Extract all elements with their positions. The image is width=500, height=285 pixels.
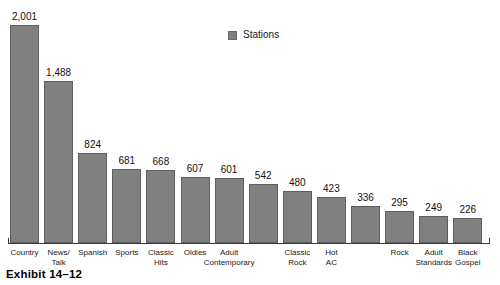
category-label-line: Talk: [47, 258, 69, 268]
bar-group[interactable]: 480: [283, 0, 312, 243]
category-label: AdultContemporary: [204, 248, 255, 267]
category-label-line: Country: [10, 248, 38, 258]
category-label: Country: [10, 248, 38, 258]
bar-group[interactable]: 668: [146, 0, 175, 243]
bar[interactable]: [112, 169, 141, 243]
bar-group[interactable]: 249: [419, 0, 448, 243]
x-axis-right-cap: [489, 238, 490, 244]
category-label-line: AC: [325, 258, 337, 268]
bar[interactable]: [78, 153, 107, 243]
bar-value-label: 249: [425, 203, 442, 213]
category-label-line: Gospel: [455, 258, 480, 268]
category-label-line: Black: [455, 248, 480, 258]
category-label: HotAC: [325, 248, 337, 267]
bar-group[interactable]: 295: [385, 0, 414, 243]
exhibit-caption: Exhibit 14–12: [6, 268, 82, 280]
bar[interactable]: [351, 206, 380, 243]
bar-value-label: 336: [357, 193, 374, 203]
bar-group[interactable]: 681: [112, 0, 141, 243]
category-label: Spanish: [78, 248, 107, 258]
category-label: Rock: [390, 248, 408, 258]
bar-group[interactable]: 2,001: [10, 0, 39, 243]
bar[interactable]: [419, 216, 448, 243]
bar[interactable]: [146, 170, 175, 243]
category-label-line: Hot: [325, 248, 337, 258]
bar-group[interactable]: 423: [317, 0, 346, 243]
bar[interactable]: [181, 177, 210, 243]
category-label: ClassicRock: [284, 248, 310, 267]
bar-value-label: 824: [84, 140, 101, 150]
bar[interactable]: [44, 81, 73, 243]
bar-value-label: 423: [323, 184, 340, 194]
bar-value-label: 2,001: [12, 12, 37, 22]
category-label-line: Classic: [284, 248, 310, 258]
bar[interactable]: [317, 197, 346, 243]
bar-chart-plot-area: 2,0011,488824681668607601542480423336295…: [0, 0, 500, 243]
bar-group[interactable]: 607: [181, 0, 210, 243]
bar[interactable]: [385, 211, 414, 243]
bar-group[interactable]: 542: [249, 0, 278, 243]
x-axis-line: [8, 243, 490, 244]
bar-value-label: 601: [221, 165, 238, 175]
bar-group[interactable]: 601: [215, 0, 244, 243]
bar-value-label: 226: [459, 205, 476, 215]
category-label-line: Adult: [415, 248, 451, 258]
exhibit-figure: Stations 2,0011,488824681668607601542480…: [0, 0, 500, 285]
category-label-line: Sports: [115, 248, 138, 258]
category-label-line: Hits: [148, 258, 174, 268]
category-label: ClassicHits: [148, 248, 174, 267]
bar[interactable]: [283, 191, 312, 243]
category-label: News/Talk: [47, 248, 69, 267]
bar-value-label: 681: [118, 156, 135, 166]
bar-value-label: 542: [255, 171, 272, 181]
category-label-line: Adult: [204, 248, 255, 258]
x-axis-left-cap: [8, 238, 9, 244]
bar-group[interactable]: 336: [351, 0, 380, 243]
category-label-line: Spanish: [78, 248, 107, 258]
bar-value-label: 1,488: [46, 68, 71, 78]
category-label-line: Standards: [415, 258, 451, 268]
category-label: AdultStandards: [415, 248, 451, 267]
category-label: BlackGospel: [455, 248, 480, 267]
bar-value-label: 668: [153, 157, 170, 167]
bar-group[interactable]: 1,488: [44, 0, 73, 243]
bar-value-label: 480: [289, 178, 306, 188]
category-label-line: Rock: [284, 258, 310, 268]
bar-value-label: 607: [187, 164, 204, 174]
bar[interactable]: [453, 218, 482, 243]
bar-group[interactable]: 824: [78, 0, 107, 243]
category-label-line: News/: [47, 248, 69, 258]
bar-group[interactable]: 226: [453, 0, 482, 243]
bar[interactable]: [215, 178, 244, 243]
bar-value-label: 295: [391, 198, 408, 208]
category-label-line: Contemporary: [204, 258, 255, 268]
category-label-line: Classic: [148, 248, 174, 258]
category-label: Sports: [115, 248, 138, 258]
bar[interactable]: [249, 184, 278, 243]
category-label-line: Rock: [390, 248, 408, 258]
bar[interactable]: [10, 25, 39, 243]
